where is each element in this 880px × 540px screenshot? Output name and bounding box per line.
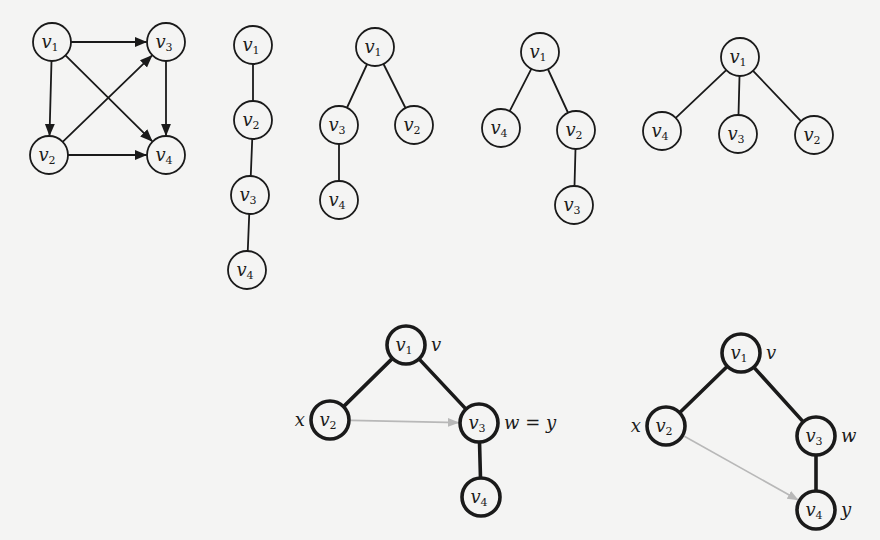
edge-v2-v3 <box>251 139 252 176</box>
edge-v1-v2 <box>680 366 728 412</box>
node-v2: v2x <box>295 401 349 439</box>
node-v1: v1 <box>356 28 394 66</box>
edge-v1-v4 <box>676 70 726 118</box>
node-v2: v2 <box>557 111 595 149</box>
edge-v1-v3 <box>419 359 466 409</box>
node-v1: v1 <box>721 38 759 76</box>
side-label-v1: v <box>766 342 776 363</box>
edge-v1-v3 <box>738 76 739 115</box>
edge-v1-v3 <box>347 64 367 107</box>
edge-v1-v2 <box>383 64 405 108</box>
node-v2: v2 <box>30 136 68 174</box>
node-v3: v3 <box>719 115 757 153</box>
node-v1: v1v <box>722 334 776 372</box>
node-v4: v4 <box>147 136 185 174</box>
highlight-arrow-v2-v3 <box>351 420 458 422</box>
node-v3: v3w <box>797 417 857 455</box>
node-v3: v3 <box>555 186 593 224</box>
node-v1: v1 <box>33 23 71 61</box>
edge-v2-v3 <box>575 149 576 186</box>
node-v4: v4 <box>462 478 500 516</box>
node-v4: v4 <box>482 109 520 147</box>
node-v1: v1 <box>521 33 559 71</box>
side-label-v2: x <box>631 415 641 436</box>
side-label-v4: y <box>840 499 852 520</box>
node-v4: v4 <box>320 181 358 219</box>
edge-v1-v2 <box>344 358 393 406</box>
graph-ancestor-case-1: v1vv2xv3w = yv4 <box>295 326 557 516</box>
node-v4: v4y <box>797 491 852 529</box>
graph-tree-path-edges <box>248 64 253 251</box>
node-v4: v4 <box>643 112 681 150</box>
graph-tree-4-edges <box>676 70 801 121</box>
side-label-v1: v <box>431 334 441 355</box>
graph-figure: v1v3v2v4v1v2v3v4v1v3v2v4v1v4v2v3v1v4v3v2… <box>0 0 880 540</box>
graph-tree-4: v1v4v3v2 <box>643 38 833 154</box>
node-v2: v2 <box>234 101 272 139</box>
node-v3: v3 <box>320 106 358 144</box>
side-label-v3: w <box>841 425 857 446</box>
node-v4: v4 <box>228 251 266 289</box>
node-v3: v3w = y <box>460 404 557 442</box>
node-v2: v2x <box>631 407 685 445</box>
edge-v1-v4 <box>510 69 532 111</box>
graph-tree-path: v1v2v3v4 <box>228 26 272 289</box>
edge-v1-v3 <box>754 367 804 422</box>
node-v3: v3 <box>147 23 185 61</box>
side-label-v3: w = y <box>504 412 557 433</box>
arc-v1-v2 <box>50 61 52 135</box>
graph-tree-2: v1v3v2v4 <box>320 28 433 219</box>
node-v2: v2 <box>395 106 433 144</box>
node-v2: v2 <box>795 116 833 154</box>
graph-digraph-edges <box>50 42 166 155</box>
edge-v1-v2 <box>548 69 568 112</box>
highlight-arrow-v2-v4 <box>684 436 797 499</box>
graph-ancestor-case-2: v1vv2xv3wv4y <box>631 334 857 529</box>
node-v1: v1v <box>387 326 441 364</box>
node-v3: v3 <box>231 176 269 214</box>
edge-v3-v4 <box>480 442 481 478</box>
side-label-v2: x <box>295 409 305 430</box>
node-v1: v1 <box>234 26 272 64</box>
edge-v1-v2 <box>753 71 801 121</box>
graph-tree-3: v1v4v2v3 <box>482 33 595 224</box>
edge-v3-v4 <box>248 214 249 251</box>
arc-v2-v3 <box>63 56 152 142</box>
